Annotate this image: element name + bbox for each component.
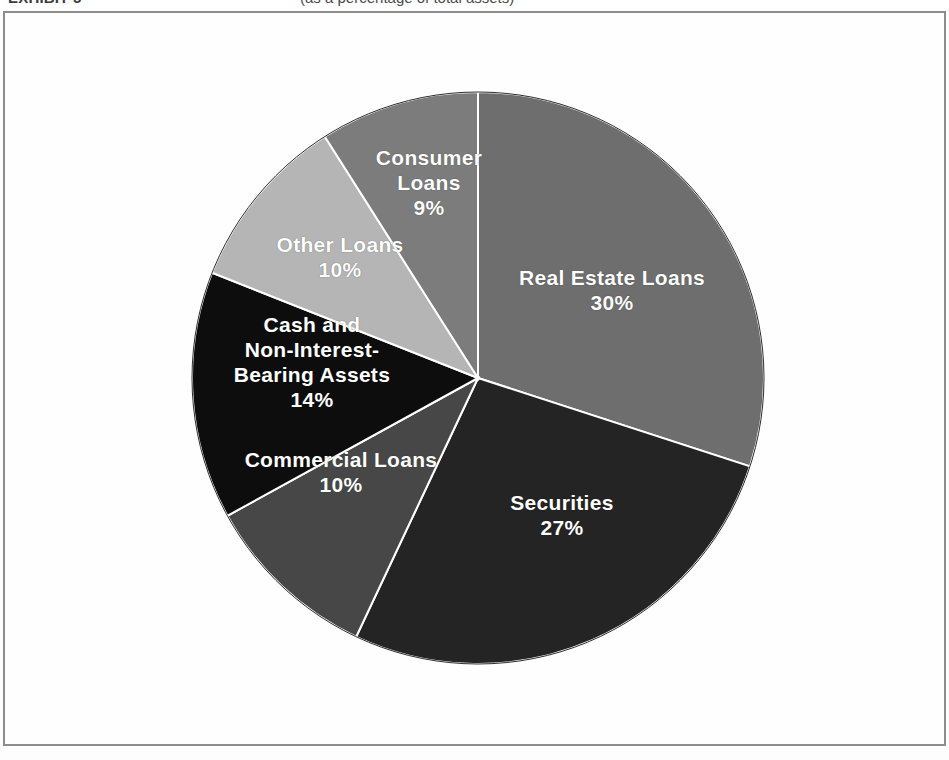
- slice-label-other-loans-percent: 10%: [250, 257, 430, 282]
- slice-label-securities-percent: 27%: [452, 515, 672, 540]
- slice-label-consumer-loans: Consumer Loans 9%: [349, 145, 509, 220]
- slice-label-cash-line-2: Non-Interest-: [192, 337, 432, 362]
- exhibit-caption-label: EXHIBIT 5: [8, 0, 81, 6]
- slice-label-cash-line-1: Cash and: [192, 312, 432, 337]
- slice-label-cash-line-3: Bearing Assets: [192, 362, 432, 387]
- slice-label-other-loans: Other Loans 10%: [250, 232, 430, 282]
- chart-frame: [3, 11, 946, 746]
- slice-label-securities-name: Securities: [452, 490, 672, 515]
- slice-label-consumer-loans-line-2: Loans: [349, 170, 509, 195]
- slice-label-other-loans-name: Other Loans: [250, 232, 430, 257]
- slice-label-consumer-loans-line-1: Consumer: [349, 145, 509, 170]
- slice-label-consumer-loans-percent: 9%: [349, 195, 509, 220]
- slice-label-cash-percent: 14%: [192, 387, 432, 412]
- exhibit-caption-strip: EXHIBIT 5 (as a percentage of total asse…: [0, 0, 949, 9]
- slice-label-real-estate-loans-percent: 30%: [487, 290, 737, 315]
- figure-root: EXHIBIT 5 (as a percentage of total asse…: [0, 0, 949, 760]
- slice-label-commercial-loans-name: Commercial Loans: [216, 447, 466, 472]
- exhibit-caption-title: (as a percentage of total assets): [300, 0, 514, 6]
- slice-label-real-estate-loans: Real Estate Loans 30%: [487, 265, 737, 315]
- slice-label-cash-and-non-interest-bearing-assets: Cash and Non-Interest- Bearing Assets 14…: [192, 312, 432, 412]
- slice-label-real-estate-loans-name: Real Estate Loans: [487, 265, 737, 290]
- slice-label-commercial-loans-percent: 10%: [216, 472, 466, 497]
- slice-label-securities: Securities 27%: [452, 490, 672, 540]
- slice-label-commercial-loans: Commercial Loans 10%: [216, 447, 466, 497]
